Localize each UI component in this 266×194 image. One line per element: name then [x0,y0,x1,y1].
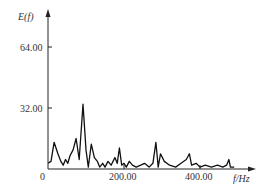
y-tick-label-32: 32.00 [20,103,43,114]
x-axis-arrow-icon [248,167,256,172]
x-tick-label-400: 400.00 [185,171,213,182]
spectrum-chart: E(f) 64.00 32.00 0 200.00 400.00 f/Hz [0,0,266,194]
x-tick-label-200: 200.00 [109,171,137,182]
y-axis-arrow-icon [46,9,51,17]
y-tick-label-64: 64.00 [20,42,43,53]
x-tick-label-origin: 0 [40,171,45,182]
x-axis-title: f/Hz [233,173,250,184]
y-axis-title: E(f) [17,11,34,23]
spectrum-line [48,104,234,167]
